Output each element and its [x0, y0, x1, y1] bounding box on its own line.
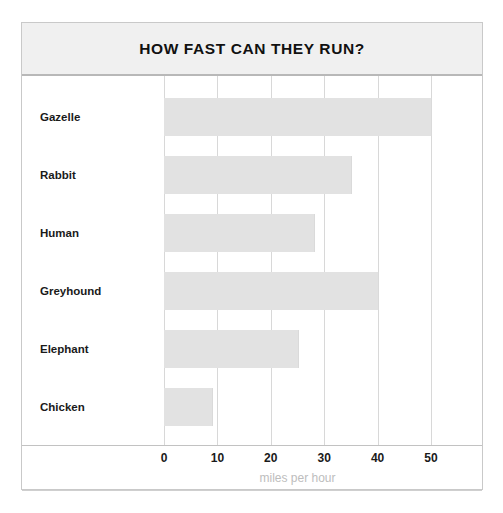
x-tick-label: 10 [211, 451, 224, 465]
bar-elephant [164, 330, 299, 368]
bar-row: Chicken [22, 378, 482, 436]
category-label: Elephant [40, 343, 160, 355]
category-label: Human [40, 227, 160, 239]
chart-frame: HOW FAST CAN THEY RUN? GazelleRabbitHuma… [21, 22, 483, 490]
x-tick-label: 40 [371, 451, 384, 465]
bar-row: Human [22, 204, 482, 262]
bar-row: Rabbit [22, 146, 482, 204]
bar-greyhound [164, 272, 379, 310]
chart-title-band: HOW FAST CAN THEY RUN? [22, 23, 482, 76]
category-label: Gazelle [40, 111, 160, 123]
bar-human [164, 214, 315, 252]
category-label: Rabbit [40, 169, 160, 181]
category-label: Chicken [40, 401, 160, 413]
x-tick-label: 50 [424, 451, 437, 465]
x-tick-label: 0 [161, 451, 168, 465]
chart-title: HOW FAST CAN THEY RUN? [139, 40, 365, 58]
bar-row: Greyhound [22, 262, 482, 320]
x-axis-title: miles per hour [259, 471, 335, 485]
x-tick-label: 20 [264, 451, 277, 465]
bar-gazelle [164, 98, 432, 136]
x-axis: miles per hour 01020304050 [22, 446, 482, 489]
axis-bottom-rule [22, 490, 482, 491]
plot-area: GazelleRabbitHumanGreyhoundElephantChick… [22, 76, 482, 446]
bar-rabbit [164, 156, 352, 194]
bar-chicken [164, 388, 213, 426]
bar-row: Gazelle [22, 88, 482, 146]
bar-rows: GazelleRabbitHumanGreyhoundElephantChick… [22, 76, 482, 445]
bar-row: Elephant [22, 320, 482, 378]
chart-plot-block: GazelleRabbitHumanGreyhoundElephantChick… [22, 76, 482, 489]
x-tick-label: 30 [318, 451, 331, 465]
category-label: Greyhound [40, 285, 160, 297]
